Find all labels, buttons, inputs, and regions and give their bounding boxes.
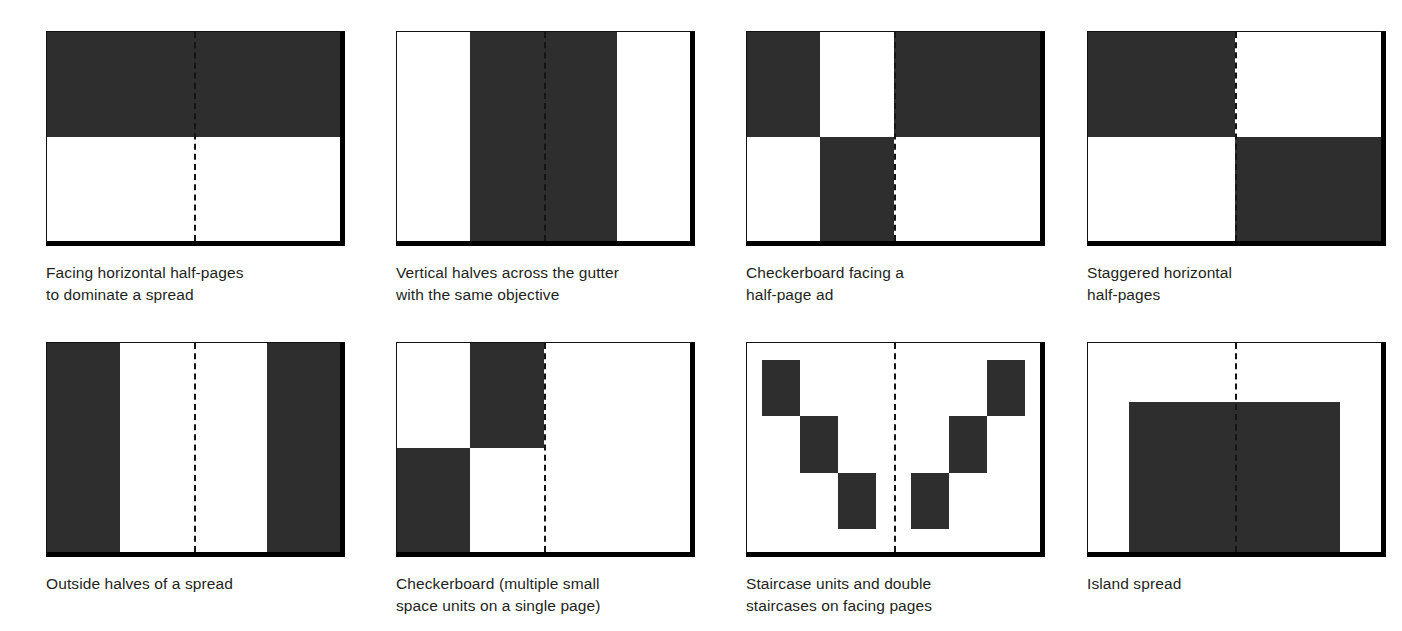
- spread-canvas: [397, 343, 690, 552]
- spread-canvas: [747, 32, 1040, 241]
- figure-sheet: Facing horizontal half-pages to dominate…: [0, 0, 1402, 631]
- space-unit-block: [949, 416, 987, 472]
- space-unit-block: [47, 343, 120, 552]
- spread-canvas: [747, 343, 1040, 552]
- gutter-line: [894, 343, 896, 552]
- spread-frame: [396, 31, 695, 246]
- gutter-line: [544, 343, 546, 552]
- space-unit-block: [820, 137, 893, 242]
- spread-canvas: [1088, 32, 1381, 241]
- gutter-line: [544, 32, 546, 241]
- panel-caption: Outside halves of a spread: [46, 573, 385, 595]
- space-unit-block: [397, 448, 470, 553]
- panel-vertical-halves-across-gutter: Vertical halves across the gutter with t…: [396, 31, 695, 246]
- panel-caption: Staircase units and double staircases on…: [746, 573, 1085, 617]
- panel-caption: Checkerboard (multiple small space units…: [396, 573, 735, 617]
- space-unit-block: [1235, 137, 1382, 242]
- panel-caption: Staggered horizontal half-pages: [1087, 262, 1402, 306]
- spread-frame: [1087, 31, 1386, 246]
- panel-staggered-horizontal-half-pages: Staggered horizontal half-pages: [1087, 31, 1386, 246]
- spread-frame: [746, 342, 1045, 557]
- panel-caption: Facing horizontal half-pages to dominate…: [46, 262, 385, 306]
- panel-checkerboard-single-page: Checkerboard (multiple small space units…: [396, 342, 695, 557]
- panel-caption: Vertical halves across the gutter with t…: [396, 262, 735, 306]
- spread-frame: [746, 31, 1045, 246]
- panel-checkerboard-facing-half-page-ad: Checkerboard facing a half-page ad: [746, 31, 1045, 246]
- spread-frame: [46, 342, 345, 557]
- panel-caption: Checkerboard facing a half-page ad: [746, 262, 1085, 306]
- space-unit-block: [987, 360, 1025, 416]
- panel-outside-halves-of-a-spread: Outside halves of a spread: [46, 342, 345, 557]
- gutter-line: [1235, 32, 1237, 241]
- spread-frame: [46, 31, 345, 246]
- space-unit-block: [747, 32, 820, 137]
- gutter-line: [1235, 343, 1237, 552]
- space-unit-block: [470, 343, 543, 448]
- panel-staircase-units-double-staircases: Staircase units and double staircases on…: [746, 342, 1045, 557]
- space-unit-block: [267, 343, 340, 552]
- gutter-line: [894, 32, 896, 241]
- space-unit-block: [838, 473, 876, 529]
- space-unit-block: [894, 32, 1041, 137]
- gutter-line: [194, 32, 196, 241]
- spread-canvas: [47, 343, 340, 552]
- space-unit-block: [762, 360, 800, 416]
- gutter-line: [194, 343, 196, 552]
- space-unit-block: [911, 473, 949, 529]
- spread-frame: [1087, 342, 1386, 557]
- space-unit-block: [1088, 32, 1235, 137]
- spread-canvas: [47, 32, 340, 241]
- panel-caption: Island spread: [1087, 573, 1402, 595]
- space-unit-block: [800, 416, 838, 472]
- panel-facing-horizontal-half-pages: Facing horizontal half-pages to dominate…: [46, 31, 345, 246]
- panel-island-spread: Island spread: [1087, 342, 1386, 557]
- spread-canvas: [397, 32, 690, 241]
- spread-canvas: [1088, 343, 1381, 552]
- spread-frame: [396, 342, 695, 557]
